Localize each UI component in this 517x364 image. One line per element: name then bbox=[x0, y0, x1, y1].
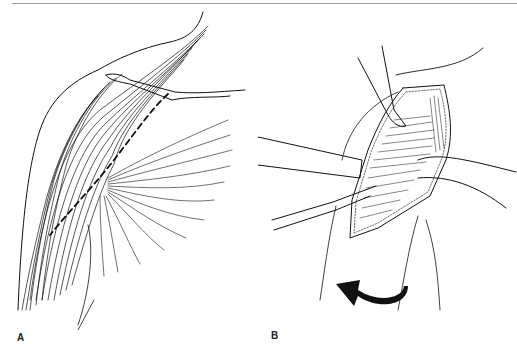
panel-label-a: A bbox=[17, 332, 24, 343]
surgical-exposure-illustration bbox=[258, 10, 517, 330]
rotation-arrow-icon bbox=[336, 280, 408, 306]
shoulder-muscle-illustration bbox=[0, 10, 260, 330]
header-rule bbox=[12, 3, 517, 4]
figure-panel-a bbox=[0, 10, 260, 330]
figure-panel-b bbox=[258, 10, 517, 330]
panel-label-b: B bbox=[271, 330, 278, 341]
